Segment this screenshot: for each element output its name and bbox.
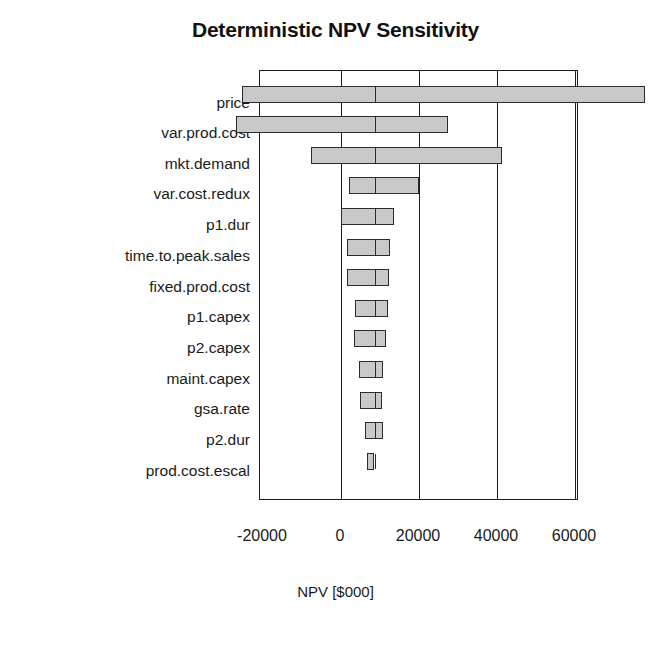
gridline-40000 [497,71,498,499]
plot-area [259,70,578,500]
gridline-20000 [419,71,420,499]
xtick-label-40000: 40000 [474,527,519,545]
bar-gsa-rate [360,392,382,409]
y-label-p2-dur: p2.dur [20,431,250,448]
bar-base-divider [375,270,376,285]
y-label-prod-cost-escal: prod.cost.escal [20,462,250,479]
y-label-var-prod-cost: var.prod.cost [20,124,250,141]
y-label-mkt-demand: mkt.demand [20,155,250,172]
bar-base-divider [375,209,376,224]
bar-base-divider [375,87,376,102]
y-label-price: price [20,94,250,111]
xtick-label--20000: -20000 [237,527,287,545]
bar-var-cost-redux [349,177,418,194]
x-axis-title: NPV [$000] [0,583,671,600]
y-label-time-to-peak-sales: time.to.peak.sales [20,247,250,264]
y-label-p2-capex: p2.capex [20,339,250,356]
xtick-label-0: 0 [336,527,345,545]
bar-fixed-prod-cost [347,269,389,286]
y-label-maint-capex: maint.capex [20,370,250,387]
bar-base-divider [375,423,376,438]
bar-base-divider [375,362,376,377]
tornado-chart-figure: Deterministic NPV Sensitivity price var.… [0,0,671,647]
xtick-label-60000: 60000 [552,527,597,545]
y-label-var-cost-redux: var.cost.redux [20,185,250,202]
bar-base-divider [375,117,376,132]
bar-base-divider [375,331,376,346]
gridline-0 [341,71,342,499]
bar-var-prod-cost [236,116,447,133]
bar-price [242,86,644,103]
y-label-gsa-rate: gsa.rate [20,400,250,417]
y-label-fixed-prod-cost: fixed.prod.cost [20,278,250,295]
bar-base-divider [375,454,376,469]
bar-time-to-peak-sales [347,239,390,256]
gridline-60000 [575,71,576,499]
y-axis-category-labels: price var.prod.cost mkt.demand var.cost.… [10,0,250,647]
y-label-p1-capex: p1.capex [20,308,250,325]
bar-p2-dur [365,422,383,439]
bar-mkt-demand [311,147,502,164]
bar-base-divider [375,393,376,408]
bar-base-divider [375,301,376,316]
bar-p1-dur [341,208,394,225]
bar-base-divider [375,178,376,193]
y-label-p1-dur: p1.dur [20,216,250,233]
xtick-label-20000: 20000 [396,527,441,545]
bar-base-divider [375,240,376,255]
bar-p2-capex [354,330,386,347]
bar-base-divider [375,148,376,163]
bar-maint-capex [359,361,383,378]
bar-p1-capex [355,300,388,317]
bar-prod-cost-escal [367,453,374,470]
